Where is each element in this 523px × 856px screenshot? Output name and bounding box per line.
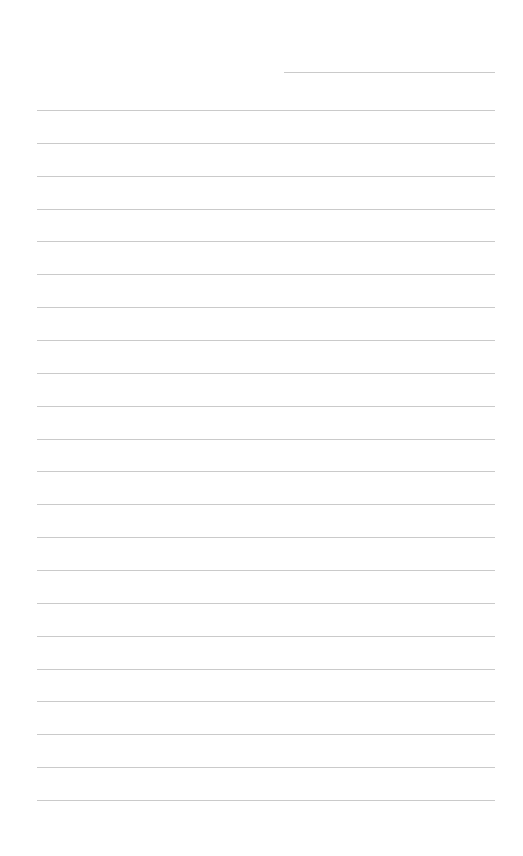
ruled-line bbox=[37, 504, 495, 505]
ruled-line bbox=[37, 701, 495, 702]
ruled-lines bbox=[37, 0, 495, 856]
ruled-line bbox=[37, 274, 495, 275]
ruled-line bbox=[37, 110, 495, 111]
ruled-line bbox=[37, 471, 495, 472]
ruled-line bbox=[37, 406, 495, 407]
ruled-line bbox=[37, 603, 495, 604]
ruled-line bbox=[37, 241, 495, 242]
ruled-line bbox=[37, 143, 495, 144]
ruled-line bbox=[37, 570, 495, 571]
ruled-line bbox=[37, 340, 495, 341]
ruled-line bbox=[37, 800, 495, 801]
ruled-line bbox=[37, 537, 495, 538]
ruled-line bbox=[37, 307, 495, 308]
ruled-line bbox=[37, 767, 495, 768]
ruled-line bbox=[37, 636, 495, 637]
ruled-line bbox=[37, 373, 495, 374]
ruled-line bbox=[37, 209, 495, 210]
ruled-line bbox=[37, 734, 495, 735]
ruled-line bbox=[37, 439, 495, 440]
ruled-line bbox=[37, 669, 495, 670]
ruled-line bbox=[37, 176, 495, 177]
